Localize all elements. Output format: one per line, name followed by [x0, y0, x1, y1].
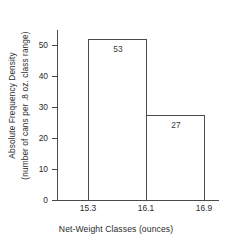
y-tick-mark-10	[52, 169, 57, 170]
y-tick-mark-0	[52, 200, 57, 201]
y-tick-label-50: 50	[8, 40, 48, 50]
y-tick-mark-40	[52, 76, 57, 77]
y-axis-line	[57, 30, 58, 201]
y-tick-mark-20	[52, 138, 57, 139]
y-tick-label-0: 0	[8, 195, 48, 205]
y-tick-mark-30	[52, 107, 57, 108]
histogram-bar-2-value: 27	[156, 120, 196, 130]
y-tick-label-10: 10	[8, 164, 48, 174]
x-tick-label-16-9: 16.9	[184, 203, 224, 213]
histogram-bar-1-value: 53	[98, 44, 138, 54]
histogram-bar-1	[88, 39, 147, 201]
y-tick-mark-50	[52, 45, 57, 46]
x-axis-title: Net-Weight Classes (ounces)	[0, 224, 232, 234]
y-tick-label-20: 20	[8, 133, 48, 143]
x-tick-label-16-1: 16.1	[126, 203, 166, 213]
y-tick-label-30: 30	[8, 102, 48, 112]
histogram-chart: Absolute Frequency Density (number of ca…	[0, 0, 232, 242]
y-tick-label-40: 40	[8, 71, 48, 81]
x-tick-label-15-3: 15.3	[68, 203, 108, 213]
